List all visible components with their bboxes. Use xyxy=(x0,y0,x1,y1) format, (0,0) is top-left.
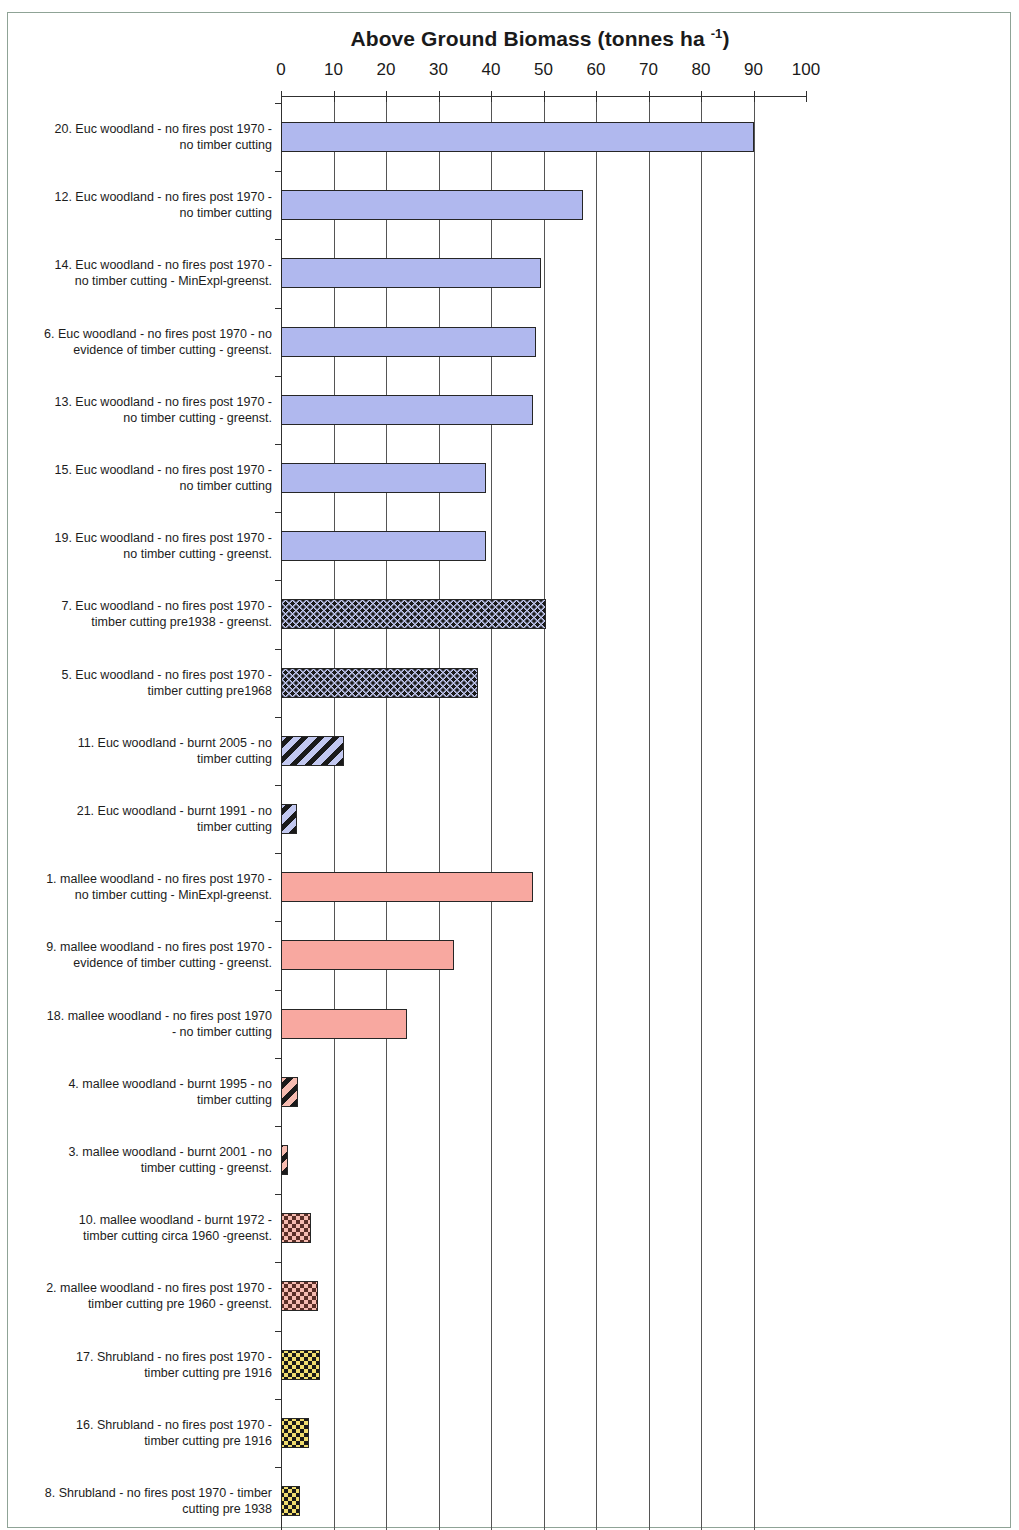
x-axis-tick xyxy=(649,91,650,102)
category-label: 15. Euc woodland - no fires post 1970 - … xyxy=(42,462,272,494)
x-axis-tick-labels: 0102030405060708090100 xyxy=(0,60,1019,82)
x-axis-tick xyxy=(754,91,755,102)
category-label: 14. Euc woodland - no fires post 1970 - … xyxy=(42,257,272,289)
category-label: 1. mallee woodland - no fires post 1970 … xyxy=(42,871,272,903)
category-label: 20. Euc woodland - no fires post 1970 - … xyxy=(42,121,272,153)
category-label: 18. mallee woodland - no fires post 1970… xyxy=(42,1008,272,1040)
bar[interactable] xyxy=(281,1281,318,1311)
y-axis-tick xyxy=(275,376,282,377)
bar-row xyxy=(281,1262,806,1330)
y-axis-tick xyxy=(275,1262,282,1263)
bar[interactable] xyxy=(281,804,297,834)
bar-row xyxy=(281,1194,806,1262)
bar-row xyxy=(281,853,806,921)
bar[interactable] xyxy=(281,1213,311,1243)
bar-row xyxy=(281,649,806,717)
y-axis-tick xyxy=(275,1331,282,1332)
category-label: 3. mallee woodland - burnt 2001 - no tim… xyxy=(42,1144,272,1176)
bar[interactable] xyxy=(281,190,583,220)
bar-row xyxy=(281,376,806,444)
chart-title: Above Ground Biomass (tonnes ha -1) xyxy=(190,26,890,51)
x-axis-tick xyxy=(596,91,597,102)
bar-row xyxy=(281,785,806,853)
bar-row xyxy=(281,1058,806,1126)
bar-row xyxy=(281,921,806,989)
y-axis-tick xyxy=(275,853,282,854)
category-label: 6. Euc woodland - no fires post 1970 - n… xyxy=(42,326,272,358)
bar[interactable] xyxy=(281,668,478,698)
category-label: 8. Shrubland - no fires post 1970 - timb… xyxy=(42,1485,272,1517)
y-axis-tick xyxy=(275,512,282,513)
y-axis-tick xyxy=(275,1126,282,1127)
y-axis-tick xyxy=(275,785,282,786)
y-axis-tick xyxy=(275,1194,282,1195)
bar-row xyxy=(281,580,806,648)
y-axis-tick xyxy=(275,1058,282,1059)
bar[interactable] xyxy=(281,940,454,970)
x-axis-tick xyxy=(386,91,387,102)
bar-row xyxy=(281,103,806,171)
bar[interactable] xyxy=(281,531,486,561)
x-tick-label-50: 50 xyxy=(534,60,553,80)
y-axis-tick xyxy=(275,239,282,240)
bar-row xyxy=(281,1126,806,1194)
x-axis-tick xyxy=(491,91,492,102)
bar[interactable] xyxy=(281,599,546,629)
y-axis-tick xyxy=(275,990,282,991)
category-label: 13. Euc woodland - no fires post 1970 - … xyxy=(42,394,272,426)
bar-row xyxy=(281,239,806,307)
bar[interactable] xyxy=(281,872,533,902)
x-axis-tick xyxy=(334,91,335,102)
chart-title-superscript: -1 xyxy=(711,26,723,41)
bar[interactable] xyxy=(281,1145,288,1175)
category-label: 10. mallee woodland - burnt 1972 - timbe… xyxy=(42,1212,272,1244)
bar-chart: Above Ground Biomass (tonnes ha -1) 0102… xyxy=(0,0,1019,1530)
category-label: 19. Euc woodland - no fires post 1970 - … xyxy=(42,530,272,562)
bar-rows xyxy=(281,96,806,1530)
bar-row xyxy=(281,308,806,376)
category-label: 21. Euc woodland - burnt 1991 - no timbe… xyxy=(42,803,272,835)
bar-row xyxy=(281,1467,806,1530)
y-axis-tick xyxy=(275,308,282,309)
bar-row xyxy=(281,717,806,785)
bar[interactable] xyxy=(281,327,536,357)
y-axis-tick xyxy=(275,103,282,104)
x-axis-tick xyxy=(701,91,702,102)
bar[interactable] xyxy=(281,1418,309,1448)
x-tick-label-90: 90 xyxy=(744,60,763,80)
x-tick-label-80: 80 xyxy=(692,60,711,80)
category-label: 9. mallee woodland - no fires post 1970 … xyxy=(42,939,272,971)
x-tick-label-10: 10 xyxy=(324,60,343,80)
bar[interactable] xyxy=(281,258,541,288)
bar[interactable] xyxy=(281,122,754,152)
x-tick-label-100: 100 xyxy=(792,60,820,80)
plot-area xyxy=(281,96,806,1530)
x-axis-tick xyxy=(544,91,545,102)
y-axis-tick xyxy=(275,580,282,581)
bar[interactable] xyxy=(281,1009,407,1039)
category-label: 2. mallee woodland - no fires post 1970 … xyxy=(42,1280,272,1312)
bar-row xyxy=(281,1331,806,1399)
bar[interactable] xyxy=(281,1486,300,1516)
y-axis-tick xyxy=(275,1399,282,1400)
bar-row xyxy=(281,512,806,580)
bar[interactable] xyxy=(281,395,533,425)
x-tick-label-30: 30 xyxy=(429,60,448,80)
bar[interactable] xyxy=(281,463,486,493)
x-tick-label-20: 20 xyxy=(377,60,396,80)
category-label: 11. Euc woodland - burnt 2005 - no timbe… xyxy=(42,735,272,767)
bar[interactable] xyxy=(281,736,344,766)
bar[interactable] xyxy=(281,1077,298,1107)
y-axis-tick xyxy=(275,649,282,650)
x-axis-tick xyxy=(806,91,807,102)
bar-row xyxy=(281,1399,806,1467)
x-tick-label-70: 70 xyxy=(639,60,658,80)
x-tick-label-40: 40 xyxy=(482,60,501,80)
bar[interactable] xyxy=(281,1350,320,1380)
x-axis-tick xyxy=(281,91,282,102)
x-tick-label-60: 60 xyxy=(587,60,606,80)
chart-title-main: Above Ground Biomass (tonnes ha xyxy=(350,27,710,50)
y-axis-tick xyxy=(275,444,282,445)
category-label: 17. Shrubland - no fires post 1970 - tim… xyxy=(42,1349,272,1381)
category-label: 4. mallee woodland - burnt 1995 - no tim… xyxy=(42,1076,272,1108)
